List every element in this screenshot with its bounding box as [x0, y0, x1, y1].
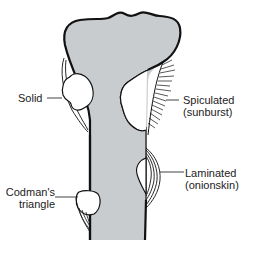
- label-codman-line1: Codman's: [5, 186, 55, 198]
- label-codman: Codman's triangle: [5, 186, 55, 210]
- label-codman-line2: triangle: [5, 198, 55, 210]
- label-spiculated-line1: Spiculated: [183, 94, 234, 106]
- label-laminated: Laminated (onionskin): [185, 167, 239, 191]
- label-solid: Solid: [18, 92, 42, 104]
- label-spiculated-line2: (sunburst): [183, 106, 234, 118]
- label-spiculated: Spiculated (sunburst): [183, 94, 234, 118]
- label-laminated-line1: Laminated: [185, 167, 239, 179]
- bone-diagram: [0, 0, 259, 261]
- label-laminated-line2: (onionskin): [185, 179, 239, 191]
